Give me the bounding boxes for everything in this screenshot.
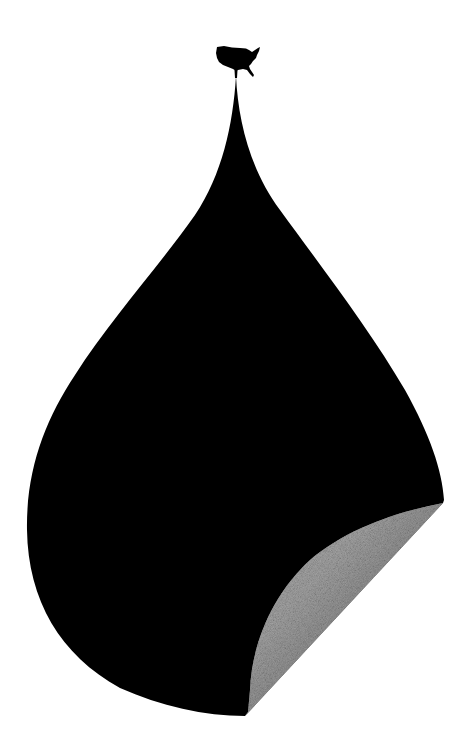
oil-drop bbox=[27, 76, 444, 716]
illustration-canvas bbox=[0, 0, 476, 747]
usa-map-icon bbox=[216, 46, 260, 78]
